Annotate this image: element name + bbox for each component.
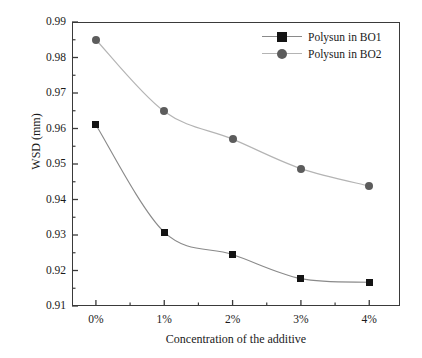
x-tick-label: 0% [76, 313, 116, 325]
y-axis-title: WSD (mm) [29, 82, 44, 202]
y-tick-label: 0.91 [30, 300, 66, 312]
legend-item: Polysun in BO1 [262, 28, 394, 45]
chart-legend: Polysun in BO1 Polysun in BO2 [262, 28, 394, 62]
y-tick-label: 0.92 [30, 265, 66, 277]
y-tick-label: 0.98 [30, 52, 66, 64]
legend-key-series-0 [262, 30, 302, 44]
y-tick-label: 0.93 [30, 229, 66, 241]
chart-figure: 0.910.920.930.940.950.960.970.980.99 WSD… [0, 0, 422, 358]
x-tick-label: 1% [144, 313, 184, 325]
x-tick-label: 2% [213, 313, 253, 325]
legend-item: Polysun in BO2 [262, 45, 394, 62]
x-tick-label: 4% [349, 313, 389, 325]
x-axis-title: Concentration of the additive [72, 332, 400, 347]
square-marker-icon [277, 32, 287, 42]
plot-area [72, 22, 400, 306]
legend-key-series-1 [262, 47, 302, 61]
circle-marker-icon [277, 49, 287, 59]
y-tick-label: 0.99 [30, 16, 66, 28]
legend-label-series-1: Polysun in BO2 [302, 48, 382, 60]
legend-label-series-0: Polysun in BO1 [302, 31, 382, 43]
x-tick-label: 3% [281, 313, 321, 325]
